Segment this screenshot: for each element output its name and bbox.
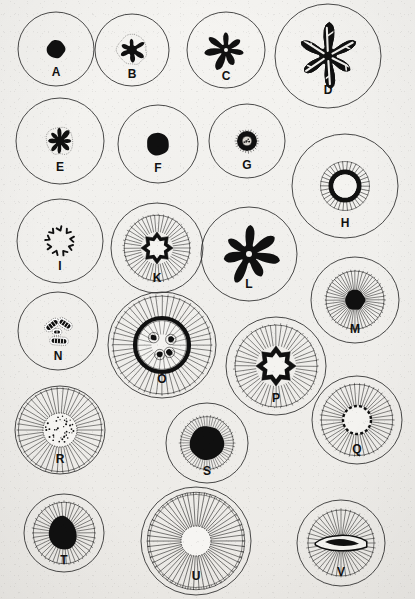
figure-label-i: I — [46, 260, 74, 272]
figure-label-c: C — [212, 70, 240, 82]
cell-figure-n — [12, 285, 104, 377]
figure-label-v: V — [327, 566, 355, 578]
illustration-plate: ABCDEFGHIKLMNOPQRSTUV — [0, 0, 415, 599]
figure-label-d: D — [314, 84, 342, 96]
figure-label-p: P — [262, 392, 290, 404]
figure-label-g: G — [233, 159, 261, 171]
figure-label-a: A — [42, 66, 70, 78]
figure-label-b: B — [118, 68, 146, 80]
figure-label-l: L — [235, 278, 263, 290]
cell-figure-a — [12, 5, 100, 93]
figure-label-f: F — [144, 162, 172, 174]
figure-label-k: K — [143, 272, 171, 284]
figure-label-r: R — [46, 453, 74, 465]
figure-label-s: S — [193, 465, 221, 477]
figure-label-h: H — [331, 217, 359, 229]
figure-label-u: U — [182, 570, 210, 582]
figure-label-o: O — [148, 373, 176, 385]
figure-label-t: T — [50, 554, 78, 566]
cell-figure-i — [11, 192, 109, 290]
cell-figure-o — [102, 285, 222, 405]
figure-label-n: N — [44, 350, 72, 362]
figure-label-m: M — [341, 323, 369, 335]
figure-label-e: E — [46, 161, 74, 173]
cell-figure-f — [112, 98, 204, 190]
figure-label-q: Q — [343, 443, 371, 455]
cell-figure-e — [10, 91, 110, 191]
